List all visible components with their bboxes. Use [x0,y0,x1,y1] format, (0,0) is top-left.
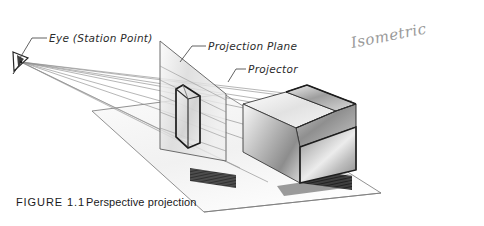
callout-label-projection-plane: Projection Plane [208,40,297,52]
handwritten-annotation-isometric: Isometric [348,20,428,53]
figure-caption-label: FIGURE 1.1 [16,196,85,208]
figure-drawing-canvas: Eye (Station Point) Projection Plane Pro… [0,0,484,226]
figure-caption-text: Perspective projection [86,196,196,208]
figure-perspective-projection: Eye (Station Point) Projection Plane Pro… [0,0,484,226]
callout-label-projector: Projector [248,63,298,75]
callout-label-eye: Eye (Station Point) [49,32,153,44]
